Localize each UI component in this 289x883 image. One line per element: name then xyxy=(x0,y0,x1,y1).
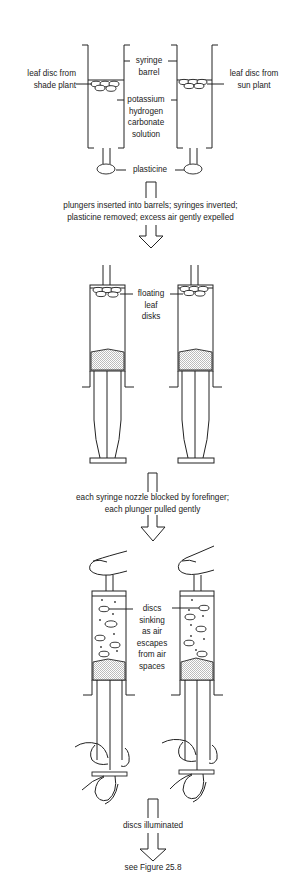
label-line: shade plant xyxy=(2,80,76,92)
plasticine-plug-left xyxy=(97,164,115,174)
label-line: sinking xyxy=(129,615,175,627)
label-line: leaf disc from xyxy=(220,68,288,80)
figure-reference: see Figure 25.8 xyxy=(103,862,203,874)
caption-line: each plunger pulled gently xyxy=(0,504,289,516)
label-line: leaf disc from xyxy=(2,68,76,80)
label-line: discs xyxy=(129,603,175,615)
floating-leaf-discs-right xyxy=(180,286,208,296)
step1-caption: plungers inserted into barrels; syringes… xyxy=(0,200,289,223)
label-line: spaces xyxy=(129,661,175,673)
label-line: floating xyxy=(129,288,173,300)
label-line: escapes xyxy=(129,638,175,650)
leaf-discs-shade xyxy=(91,81,119,91)
label-plasticine: plasticine xyxy=(125,164,175,176)
label-shade-plant: leaf disc from shade plant xyxy=(2,68,76,91)
stage3-left-syringe xyxy=(75,551,135,804)
label-sun-plant: leaf disc from sun plant xyxy=(220,68,288,91)
label-floating-leaf-disks: floating leaf disks xyxy=(129,288,173,323)
label-line: potassium xyxy=(118,94,174,106)
label-solution: potassium hydrogen carbonate solution xyxy=(118,94,174,140)
label-line: sun plant xyxy=(220,80,288,92)
stage3-right-syringe xyxy=(162,546,223,802)
label-line: as air xyxy=(129,626,175,638)
forefinger-left xyxy=(90,551,127,575)
floating-leaf-discs-left xyxy=(93,287,121,297)
stage1-right-syringe xyxy=(171,45,218,174)
label-line: from air xyxy=(129,649,175,661)
caption-line: each syringe nozzle blocked by forefinge… xyxy=(0,492,289,504)
label-syringe-barrel: syringe barrel xyxy=(126,55,172,78)
label-line: barrel xyxy=(126,67,172,79)
plasticine-plug-right xyxy=(184,164,202,174)
label-line: hydrogen xyxy=(118,106,174,118)
step2-caption: each syringe nozzle blocked by forefinge… xyxy=(0,492,289,515)
stage2-right-syringe xyxy=(169,265,222,463)
label-line: solution xyxy=(118,129,174,141)
caption-line: plasticine removed; excess air gently ex… xyxy=(0,212,289,224)
label-line: leaf xyxy=(129,300,173,312)
label-line: carbonate xyxy=(118,117,174,129)
stage2-left-syringe xyxy=(82,265,134,463)
label-line: syringe xyxy=(126,55,172,67)
label-line: disks xyxy=(129,311,173,323)
leaf-discs-sun xyxy=(179,79,207,88)
step3-caption: discs illuminated xyxy=(103,820,203,832)
caption-line: plungers inserted into barrels; syringes… xyxy=(0,200,289,212)
label-discs-sinking: discs sinking as air escapes from air sp… xyxy=(129,603,175,672)
